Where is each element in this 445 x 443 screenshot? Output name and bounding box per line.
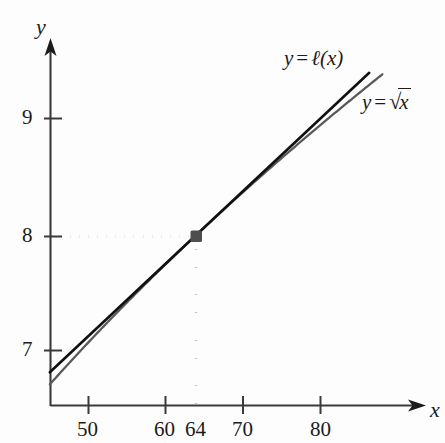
radical-argument: x <box>398 88 410 114</box>
tangent-label-lhs: y <box>284 46 293 70</box>
x-tick-label-50: 50 <box>77 419 98 440</box>
sqrt-curve-label: y=√x <box>362 91 411 113</box>
tangent-label-argument: (x) <box>320 46 343 70</box>
y-tick-label-7: 7 <box>22 339 33 360</box>
tangent-line-label: y=ℓ(x) <box>284 48 343 69</box>
math-plot <box>0 0 445 443</box>
x-tick-label-60: 60 <box>154 419 175 440</box>
sqrt-label-operator: = <box>371 90 389 114</box>
y-tick-label-8: 8 <box>22 225 33 246</box>
y-axis-label: y <box>36 16 46 38</box>
sqrt-label-lhs: y <box>362 90 371 114</box>
tangent-point-marker <box>191 231 203 243</box>
sqrt-curve <box>50 74 383 384</box>
tangent-label-operator: = <box>293 46 311 70</box>
tangent-line <box>50 73 369 372</box>
y-tick-label-9: 9 <box>22 107 33 128</box>
x-axis-label: x <box>430 399 440 421</box>
radical-group: √x <box>389 91 410 113</box>
x-tick-label-80: 80 <box>310 419 331 440</box>
figure-canvas: y x 9 8 7 50 60 64 70 80 y=ℓ(x) y=√x <box>0 0 445 443</box>
x-tick-label-70: 70 <box>232 419 253 440</box>
x-tick-label-64: 64 <box>185 419 206 440</box>
tangent-label-function: ℓ <box>311 46 320 70</box>
